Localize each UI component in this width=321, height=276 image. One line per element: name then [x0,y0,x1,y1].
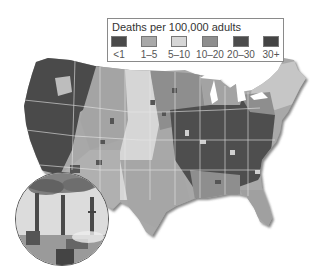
legend-label-30plus: 30+ [256,49,286,60]
legend-swatch-5-10 [171,36,187,47]
legend-label-5-10: 5–10 [164,49,194,60]
legend-label-10-20: 10–20 [195,49,225,60]
legend-swatch-20-30 [233,36,249,47]
legend-swatch-1-5 [141,36,157,47]
map-legend: Deaths per 100,000 adults <1 1–5 5–10 10… [107,18,284,62]
legend-swatch-lt1 [111,36,127,47]
legend-swatch-10-20 [202,36,218,47]
smokestacks-icon [16,173,108,265]
legend-label-lt1: <1 [104,49,134,60]
legend-label-20-30: 20–30 [226,49,256,60]
smokestacks-photo-inset [15,172,109,266]
legend-label-1-5: 1–5 [134,49,164,60]
legend-title: Deaths per 100,000 adults [112,21,241,33]
legend-swatch-30plus [263,36,279,47]
